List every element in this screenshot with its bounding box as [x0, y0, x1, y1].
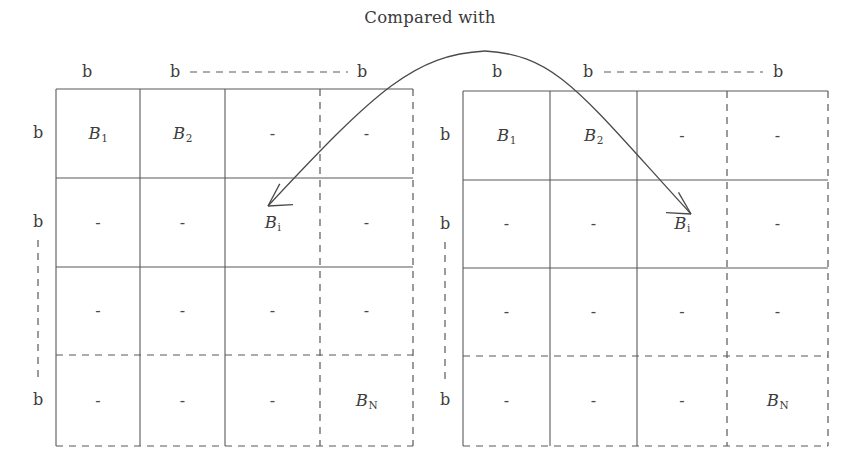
- left-grid-cell-r2-c0: -: [95, 303, 100, 319]
- right-grid-cell-r0-c3: -: [775, 128, 780, 144]
- right-grid-cell-r2-c2: -: [679, 304, 684, 320]
- left-grid-cell-r0-c1: B2: [173, 125, 192, 142]
- left-grid-cell-r0-c2: -: [270, 126, 275, 142]
- right-grid-top-label-0: b: [492, 64, 502, 80]
- right-grid-cell-r3-c3: BN: [767, 393, 788, 410]
- left-grid-cell-r3-c3: BN: [356, 392, 377, 409]
- right-grid-cell-r3-c2: -: [679, 393, 684, 409]
- right-grid-side-label-1: b: [440, 216, 450, 232]
- diagram-canvas: Compared with bbbbbbB1B2----Bi--------BN…: [0, 0, 860, 471]
- right-grid-side-label-0: b: [440, 127, 450, 143]
- left-grid-cell-r1-c1: -: [180, 215, 185, 231]
- left-grid-cell-r3-c1: -: [180, 393, 185, 409]
- right-grid-cell-r1-c3: -: [775, 216, 780, 232]
- right-grid-cell-r0-c0: B1: [497, 127, 516, 144]
- right-grid-cell-r2-c0: -: [504, 304, 509, 320]
- grid-lines-group: [38, 72, 828, 446]
- left-grid-cell-r1-c0: -: [95, 215, 100, 231]
- right-grid-cell-r0-c1: B2: [584, 127, 603, 144]
- right-grid-top-label-1: b: [583, 64, 593, 80]
- diagram-vector-layer: [0, 0, 860, 471]
- right-grid-cell-r2-c1: -: [591, 304, 596, 320]
- left-grid-cell-r3-c2: -: [270, 393, 275, 409]
- left-grid-top-label-0: b: [82, 64, 92, 80]
- left-grid-cell-r1-c2: Bi: [265, 214, 281, 231]
- right-grid-cell-r2-c3: -: [775, 304, 780, 320]
- left-grid-side-label-0: b: [33, 125, 43, 141]
- left-grid-top-label-2: b: [357, 64, 367, 80]
- left-grid-cell-r3-c0: -: [95, 393, 100, 409]
- arrow-arc-left-segment: [268, 51, 485, 206]
- left-grid-cell-r1-c3: -: [364, 215, 369, 231]
- right-grid-cell-r3-c1: -: [591, 393, 596, 409]
- left-grid-side-label-1: b: [33, 214, 43, 230]
- right-grid-top-label-2: b: [773, 64, 783, 80]
- left-grid-top-label-1: b: [170, 64, 180, 80]
- left-grid-cell-r2-c1: -: [180, 303, 185, 319]
- right-grid-cell-r1-c1: -: [591, 216, 596, 232]
- right-grid-side-label-2: b: [440, 392, 450, 408]
- right-grid-cell-r1-c0: -: [504, 216, 509, 232]
- left-grid-cell-r2-c2: -: [270, 303, 275, 319]
- right-grid-cell-r3-c0: -: [504, 393, 509, 409]
- left-grid-cell-r2-c3: -: [364, 303, 369, 319]
- left-grid-cell-r0-c0: B1: [89, 125, 108, 142]
- right-grid-cell-r0-c2: -: [679, 128, 684, 144]
- right-grid-cell-r1-c2: Bi: [674, 216, 690, 233]
- left-grid-cell-r0-c3: -: [364, 126, 369, 142]
- arrow-head-left: [268, 205, 293, 206]
- comparison-arrow-group: [268, 51, 691, 214]
- left-grid-side-label-2: b: [33, 392, 43, 408]
